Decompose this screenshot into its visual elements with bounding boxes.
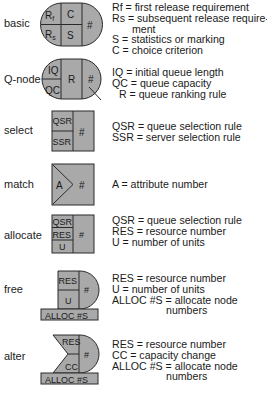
select-cell-qsr: QSR: [53, 116, 73, 126]
definition: RES = resource number: [112, 226, 242, 237]
allocate-definitions: QSR = queue selection rule RES = resourc…: [112, 215, 242, 247]
basic-cell-hash: #: [87, 20, 93, 31]
definition: SSR = server selection rule: [112, 132, 242, 143]
definition: numbers: [112, 371, 238, 382]
free-cell-res: RES: [59, 276, 78, 286]
basic-node-symbol: Rf C Rs S #: [41, 3, 103, 46]
alter-alloc-bar: ALLOC #S: [45, 375, 88, 385]
select-cell-hash: #: [79, 127, 85, 138]
free-alloc-bar: ALLOC #S: [45, 311, 88, 321]
q-node-cell-r: R: [68, 74, 75, 85]
row-label-allocate: allocate: [4, 229, 42, 241]
allocate-cell-qsr: QSR: [53, 217, 73, 227]
q-node-cell-hash: #: [88, 74, 94, 85]
node-symbols-canvas: Rf C Rs S # IQ QC R # QSR SSR # A #: [0, 0, 267, 396]
select-node-symbol: QSR SSR #: [52, 111, 94, 151]
row-label-match: match: [4, 178, 34, 190]
definition: Rs = subsequent release require-: [112, 13, 267, 24]
free-cell-hash: #: [84, 285, 89, 295]
select-definitions: QSR = queue selection rule SSR = server …: [112, 121, 242, 143]
row-label-free: free: [4, 283, 23, 295]
definition: numbers: [112, 305, 238, 316]
row-label-q-node: Q-node: [4, 73, 41, 85]
free-cell-u: U: [65, 296, 72, 306]
definition: A = attribute number: [112, 179, 208, 190]
allocate-cell-u: U: [59, 242, 66, 252]
row-label-select: select: [4, 124, 33, 136]
q-node-symbol: IQ QC R #: [42, 59, 101, 100]
basic-cell-c: C: [67, 9, 74, 20]
q-node-definitions: IQ = initial queue length QC = queue cap…: [112, 67, 226, 99]
definition: U = number of units: [112, 237, 242, 248]
allocate-node-symbol: QSR RES U #: [52, 215, 94, 253]
definition: QC = queue capacity: [112, 78, 226, 89]
row-label-basic: basic: [4, 17, 30, 29]
select-cell-ssr: SSR: [53, 137, 72, 147]
match-definitions: A = attribute number: [112, 179, 208, 190]
q-node-cell-qc: QC: [45, 85, 60, 96]
match-node-symbol: A #: [52, 164, 94, 205]
alter-cell-cc: CC: [65, 362, 78, 372]
allocate-cell-hash: #: [79, 230, 84, 240]
alter-cell-hash: #: [84, 350, 89, 360]
alter-definitions: RES = resource number CC = capacity chan…: [112, 339, 238, 382]
q-node-cell-iq: IQ: [48, 65, 59, 76]
basic-definitions: Rf = first release requirement Rs = subs…: [112, 2, 267, 56]
definition: C = choice criterion: [112, 45, 267, 56]
free-definitions: RES = resource number U = number of unit…: [112, 273, 238, 316]
match-cell-hash: #: [79, 180, 85, 191]
alter-cell-res: RES: [62, 337, 81, 347]
alter-node-symbol: RES CC # ALLOC #S: [41, 335, 99, 385]
match-cell-a: A: [56, 180, 63, 191]
free-node-symbol: RES U # ALLOC #S: [41, 271, 99, 321]
definition: CC = capacity change: [112, 350, 238, 361]
basic-cell-s: S: [67, 30, 74, 41]
allocate-cell-res: RES: [53, 230, 72, 240]
definition: U = number of units: [112, 284, 238, 295]
row-label-alter: alter: [4, 350, 25, 362]
definition: R = queue ranking rule: [112, 89, 226, 100]
